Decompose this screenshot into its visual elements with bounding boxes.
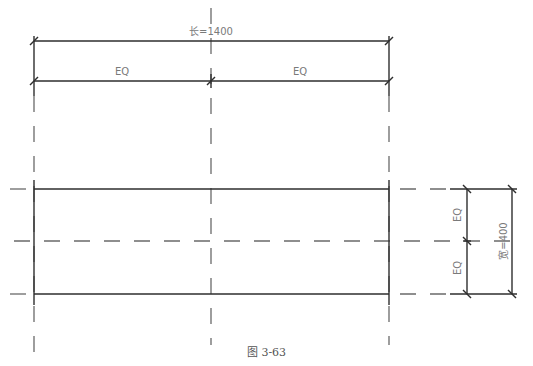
figure-caption: 图 3-63 [0,343,533,359]
width-label: 宽=400 [497,222,509,259]
horizontal-reference-lines [10,189,520,294]
length-label: 长=1400 [189,26,233,37]
width-half-bottom-label: EQ [452,261,463,275]
length-half-left-label: EQ [115,66,129,77]
length-half-right-label: EQ [293,66,307,77]
drawing-canvas: 长=1400 EQ EQ EQ EQ 宽=400 [0,0,533,366]
vertical-reference-lines [34,8,389,360]
width-half-top-label: EQ [452,208,463,222]
